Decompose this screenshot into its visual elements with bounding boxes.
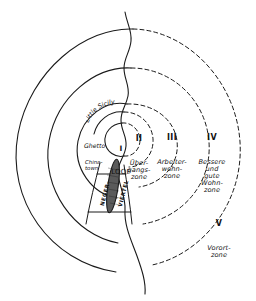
burgess-zone-model-figure: Little Sicily I LOOP II Über- gangs- zon… — [0, 0, 256, 301]
zone-4-numeral: IV — [192, 134, 232, 142]
wedge-line-left — [86, 163, 100, 224]
zone-5-name: Vorort- zone — [197, 245, 241, 259]
zone-2-label: II Über- gangs- zone — [124, 118, 154, 198]
zone-2-numeral: II — [124, 135, 154, 143]
ghetto-label: Ghetto — [84, 143, 105, 150]
zone-4-name: Bessere und gute Wohn- zone — [192, 159, 232, 194]
zone-3-name: Arbeiter- wohn- zone — [155, 159, 189, 180]
zone-5-label: V Vorort- zone — [197, 203, 241, 276]
chinatown-label: China- town — [85, 160, 102, 171]
zone-3-label: III Arbeiter- wohn- zone — [155, 117, 189, 197]
zone-5-numeral: V — [197, 220, 241, 228]
little-sicily-text: Little Sicily — [86, 99, 116, 124]
zone-2-name: Über- gangs- zone — [124, 160, 154, 181]
zone-4-label: IV Bessere und gute Wohn- zone — [192, 117, 232, 210]
zone-3-numeral: III — [155, 134, 189, 142]
